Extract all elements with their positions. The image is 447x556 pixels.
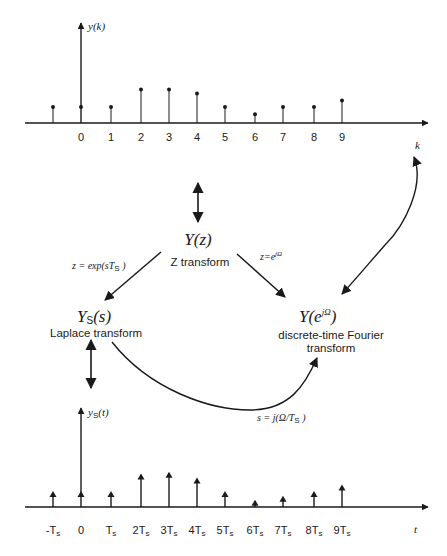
k-tick-label: 6 (252, 131, 258, 143)
z-to-dtft-equation: z=ejΩ (259, 250, 282, 262)
k-tick-label: 8 (311, 131, 317, 143)
k-tick-label: 3 (166, 131, 172, 143)
dtft-node: Y(ejΩ) discrete-time Fourier transform (278, 307, 384, 354)
t-tick-label: 3Ts (161, 524, 178, 538)
impulse-arrowhead (280, 496, 287, 502)
sample-dot (253, 112, 257, 116)
dtft-name-line1: discrete-time Fourier (278, 329, 384, 341)
k-tick-label: 2 (138, 131, 144, 143)
dtft-name-line2: transform (307, 342, 356, 354)
sample-dot (223, 105, 227, 109)
laplace-transform-name: Laplace transform (50, 327, 142, 339)
k-tick-label: 1 (108, 131, 114, 143)
t-tick-label: 4Ts (189, 524, 206, 538)
discrete-signal-plot: y(k) k 0123456789 (25, 20, 428, 151)
laplace-to-dtft-equation: s = j(Ω/TS ) (257, 412, 306, 425)
sample-dot (195, 91, 199, 95)
sampled-signal-plot: yS(t) t -Ts0Ts2Ts3Ts4Ts5Ts6Ts7Ts8Ts9Ts (25, 406, 428, 538)
k-tick-label: 0 (78, 131, 84, 143)
z-transform-node: Y(z) Z transform (171, 230, 230, 268)
sample-dot (167, 87, 171, 91)
t-tick-label: 7Ts (275, 524, 292, 538)
t-tick-label: 6Ts (247, 524, 264, 538)
z-transform-symbol: Y(z) (184, 230, 212, 249)
sample-dot (281, 105, 285, 109)
t-tick-label: 8Ts (306, 524, 323, 538)
laplace-transform-symbol: YS(s) (77, 307, 111, 326)
t-axis-label: t (414, 523, 418, 535)
k-to-dtft-curved-double-arrow (342, 157, 417, 294)
impulse-arrowhead (311, 491, 318, 497)
t-tick-label: -Ts (46, 524, 60, 538)
laplace-transform-node: YS(s) Laplace transform (50, 307, 142, 339)
y-k-axis-label: y(k) (87, 20, 105, 33)
impulse-arrowhead (339, 485, 346, 491)
y-s-t-axis-label: yS(t) (87, 406, 109, 420)
k-tick-label: 9 (339, 131, 345, 143)
k-tick-label: 5 (222, 131, 228, 143)
impulse-arrowhead (252, 500, 259, 506)
impulse-arrowhead (166, 472, 173, 478)
z-transform-name: Z transform (171, 256, 230, 268)
impulse-arrowhead (50, 491, 57, 497)
impulse-arrowhead (138, 473, 145, 479)
k-tick-label: 4 (194, 131, 200, 143)
laplace-to-dtft-curved-arrow (112, 342, 317, 410)
t-tick-label: 0 (78, 524, 84, 536)
sample-dot (79, 105, 83, 109)
impulse-arrowhead (78, 491, 85, 497)
sample-dot (139, 87, 143, 91)
impulse-arrowhead (108, 491, 115, 497)
z-to-laplace-equation: z = exp(sTS ) (71, 260, 126, 273)
t-tick-label: 9Ts (334, 524, 351, 538)
impulse-arrowhead (194, 477, 201, 483)
k-tick-label: 7 (280, 131, 286, 143)
sample-dot (109, 105, 113, 109)
k-axis-label: k (415, 139, 421, 151)
transform-diagram: y(k) k 0123456789 Y(z) Z transform z = e… (0, 0, 447, 556)
dtft-symbol: Y(ejΩ) (299, 307, 337, 326)
sample-dot (51, 105, 55, 109)
t-tick-label: 5Ts (217, 524, 234, 538)
impulse-arrowhead (222, 491, 229, 497)
sample-dot (340, 99, 344, 103)
t-tick-label: Ts (106, 524, 117, 538)
t-tick-label: 2Ts (133, 524, 150, 538)
sample-dot (312, 105, 316, 109)
